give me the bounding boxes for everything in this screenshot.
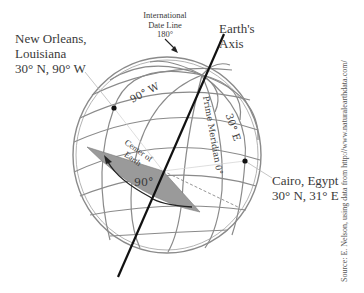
cairo-name: Cairo, Egypt bbox=[272, 173, 339, 188]
cairo-coords: 30° N, 31° E bbox=[272, 188, 339, 203]
globe-diagram: New Orleans, Louisiana 30° N, 90° W Cair… bbox=[0, 0, 364, 293]
cairo-label: Cairo, Egypt 30° N, 31° E bbox=[272, 173, 339, 203]
new-orleans-coords: 30° N, 90° W bbox=[15, 61, 86, 76]
date-line-arrowhead bbox=[171, 46, 178, 53]
angle-label: 90° bbox=[134, 176, 154, 189]
cairo-radius bbox=[163, 161, 245, 171]
earth-axis-label: Earth's Axis bbox=[219, 21, 255, 51]
date-line-label: International Date Line 180° bbox=[125, 11, 205, 40]
new-orleans-dot bbox=[111, 105, 116, 110]
source-credit: Source: E. Nelson, using data from http:… bbox=[340, 60, 349, 282]
cairo-dot bbox=[242, 158, 247, 163]
new-orleans-state: Louisiana bbox=[15, 46, 86, 61]
new-orleans-label: New Orleans, Louisiana 30° N, 90° W bbox=[15, 31, 86, 76]
new-orleans-name: New Orleans, bbox=[15, 31, 86, 46]
